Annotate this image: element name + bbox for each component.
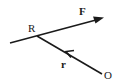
label-force-f: F	[79, 5, 86, 17]
label-point-r: R	[28, 22, 36, 34]
label-origin-o: O	[104, 69, 112, 80]
diagram-svg: R F r O	[0, 0, 119, 80]
label-position-r: r	[61, 58, 66, 70]
vector-diagram: R F r O	[0, 0, 119, 80]
force-arrowhead-icon	[93, 17, 104, 24]
force-line	[10, 20, 96, 43]
